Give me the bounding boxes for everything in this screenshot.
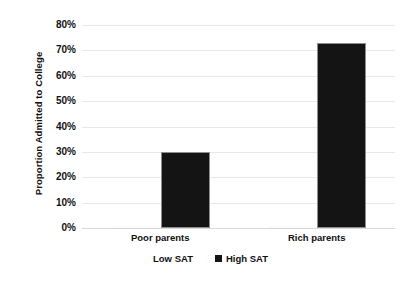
- gridline: [82, 25, 395, 26]
- x-axis-category-label: Rich parents: [239, 232, 396, 243]
- legend-label: High SAT: [226, 253, 268, 264]
- legend-label: Low SAT: [153, 253, 193, 264]
- chart-legend: Low SATHigh SAT: [0, 253, 410, 264]
- plot-area: [82, 25, 395, 228]
- high-sat-swatch-icon: [215, 255, 222, 262]
- y-axis-tick-label: 80%: [32, 20, 76, 30]
- y-axis-tick-label: 10%: [32, 198, 76, 208]
- y-axis-tick-label: 60%: [32, 71, 76, 81]
- bar-low-sat-rich-parents[interactable]: [267, 226, 316, 228]
- bar-chart: Proportion Admitted to College 80%70%60%…: [0, 0, 410, 290]
- bar-high-sat-poor-parents[interactable]: [161, 152, 210, 228]
- gridline: [82, 228, 395, 229]
- y-axis-tick-label: 40%: [32, 122, 76, 132]
- y-axis-tick-label: 50%: [32, 96, 76, 106]
- legend-item[interactable]: High SAT: [215, 253, 268, 264]
- legend-item[interactable]: Low SAT: [142, 253, 193, 264]
- x-axis-category-label: Poor parents: [82, 232, 239, 243]
- bar-high-sat-rich-parents[interactable]: [317, 43, 366, 228]
- low-sat-swatch-icon: [142, 255, 149, 262]
- bar-low-sat-poor-parents[interactable]: [111, 226, 160, 228]
- y-axis-tick-labels: 80%70%60%50%40%30%20%10%0%: [26, 25, 76, 228]
- y-axis-tick-label: 0%: [32, 223, 76, 233]
- y-axis-tick-label: 30%: [32, 147, 76, 157]
- y-axis-tick-label: 70%: [32, 45, 76, 55]
- x-axis-category-labels: Poor parentsRich parents: [82, 232, 395, 248]
- y-axis-tick-label: 20%: [32, 172, 76, 182]
